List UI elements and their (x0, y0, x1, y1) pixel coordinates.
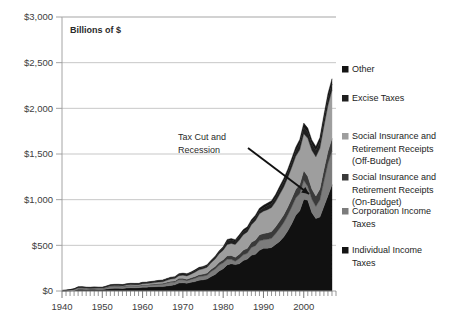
legend-label: Individual Income (352, 245, 422, 255)
legend-label: Social Insurance and (352, 131, 436, 141)
legend-swatch (342, 208, 349, 215)
y-axis-tick-label: $500 (32, 240, 53, 251)
y-axis-tick-label: $2,000 (24, 103, 53, 114)
y-axis-tick-label: $2,500 (24, 57, 53, 68)
legend-swatch (342, 133, 349, 140)
x-axis-tick-label: 1940 (51, 301, 72, 312)
y-axis-tick-label: $1,000 (24, 194, 53, 205)
tax-receipts-stacked-area-chart: $0$500$1,000$1,500$2,000$2,500$3,0001940… (0, 0, 454, 326)
chart-canvas: $0$500$1,000$1,500$2,000$2,500$3,0001940… (0, 0, 454, 326)
annotation-line-1: Tax Cut and (178, 132, 226, 142)
x-axis-tick-label: 2000 (293, 301, 314, 312)
y-axis-tick-label: $0 (42, 285, 53, 296)
x-axis-tick-label: 1970 (172, 301, 193, 312)
legend-label: Retirement Receipts (352, 144, 434, 154)
x-axis-tick-label: 1990 (253, 301, 274, 312)
y-axis-tick-label: $1,500 (24, 148, 53, 159)
legend-swatch (342, 247, 349, 254)
legend-label: Other (352, 64, 375, 74)
annotation-line-2: Recession (178, 145, 220, 155)
x-axis-tick-label: 1980 (213, 301, 234, 312)
legend-label: Retirement Receipts (352, 185, 434, 195)
legend-label: Taxes (352, 219, 376, 229)
legend-label: Social Insurance and (352, 172, 436, 182)
legend-swatch (342, 95, 349, 102)
y-axis-tick-label: $3,000 (24, 11, 53, 22)
legend-label: Corporation Income (352, 206, 431, 216)
legend-label: Excise Taxes (352, 93, 405, 103)
legend-swatch (342, 66, 349, 73)
x-axis-tick-label: 1950 (92, 301, 113, 312)
axis-title-billions: Billions of $ (70, 25, 121, 35)
legend-swatch (342, 174, 349, 181)
legend-label: Taxes (352, 258, 376, 268)
x-axis-tick-label: 1960 (132, 301, 153, 312)
legend-label: (Off-Budget) (352, 156, 401, 166)
